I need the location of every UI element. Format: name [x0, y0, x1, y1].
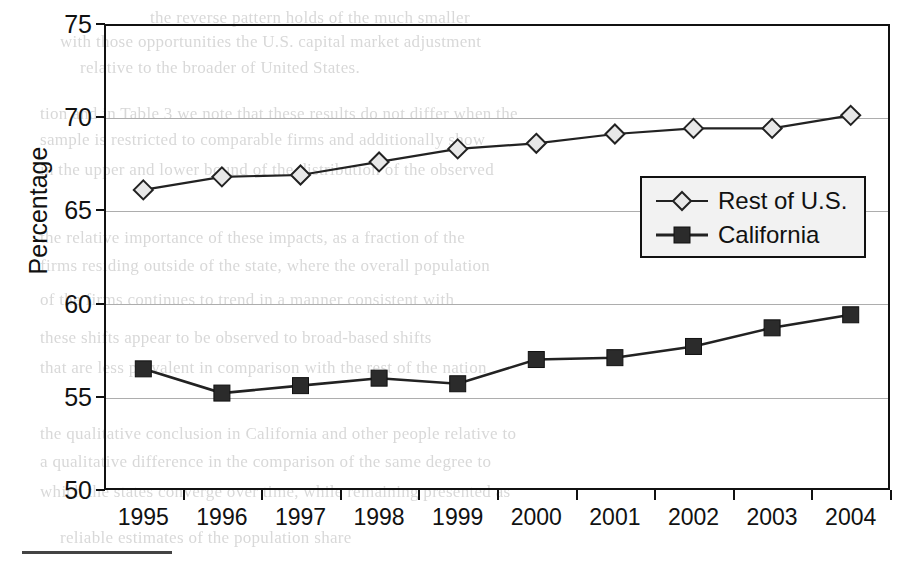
data-point-diamond-marker: [841, 106, 860, 125]
legend-label-rest-of-us: Rest of U.S.: [718, 187, 847, 215]
series-line: [143, 315, 850, 393]
data-point-square-marker: [686, 338, 702, 354]
series-layer: [0, 0, 923, 561]
legend-item-california: California: [642, 218, 864, 252]
data-point-diamond-marker: [370, 152, 389, 171]
footnote-separator-rule: [22, 551, 172, 554]
data-point-square-marker: [450, 376, 466, 392]
data-point-square-marker: [764, 320, 780, 336]
square-filled-marker-icon: [654, 223, 710, 247]
data-point-square-marker: [607, 350, 623, 366]
data-point-diamond-marker: [212, 167, 231, 186]
data-point-square-marker: [843, 307, 859, 323]
data-point-diamond-marker: [605, 124, 624, 143]
legend-label-california: California: [718, 221, 819, 249]
data-point-diamond-marker: [134, 180, 153, 199]
data-point-square-marker: [528, 352, 544, 368]
data-point-square-marker: [371, 370, 387, 386]
data-point-diamond-marker: [448, 139, 467, 158]
data-point-diamond-marker: [291, 165, 310, 184]
data-point-diamond-marker: [527, 134, 546, 153]
legend-item-rest-of-us: Rest of U.S.: [642, 184, 864, 218]
data-point-square-marker: [135, 361, 151, 377]
data-point-diamond-marker: [684, 119, 703, 138]
chart-legend: Rest of U.S. California: [640, 176, 866, 258]
data-point-square-marker: [293, 378, 309, 394]
diamond-open-marker-icon: [654, 189, 710, 213]
line-chart-figure: Percentage 757065605550 1995199619971998…: [0, 0, 923, 561]
data-point-diamond-marker: [763, 119, 782, 138]
data-point-square-marker: [214, 385, 230, 401]
